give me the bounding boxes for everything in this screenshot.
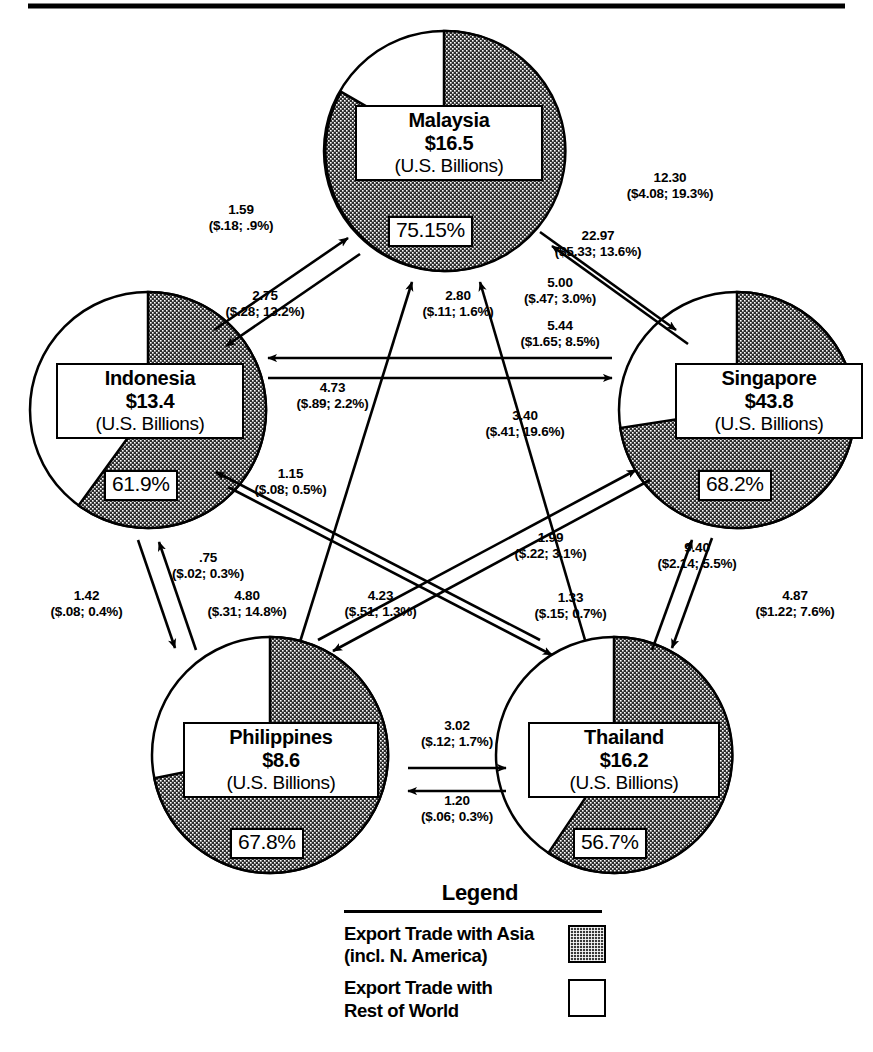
node-unit: (U.S. Billions): [365, 155, 533, 177]
node-box-thailand: Thailand $16.2 (U.S. Billions): [528, 722, 720, 798]
flow-label-indonesia-thailand: 4.80 ($.31; 14.8%): [182, 588, 312, 620]
flow-label-malaysia-singapore: 12.30 ($4.08; 19.3%): [600, 170, 740, 202]
pct-box-malaysia: 75.15%: [388, 216, 473, 247]
node-name: Indonesia: [66, 367, 234, 390]
trade-flow-diagram: Malaysia $16.5 (U.S. Billions) 75.15% In…: [0, 0, 873, 1052]
flow-label-singapore-malaysia: 22.97 ($5.33; 13.6%): [528, 228, 668, 260]
flow-label-philippines-indonesia: .75 ($.02; 0.3%): [148, 550, 268, 582]
flow-label-singapore-philippines: 3.40 ($.41; 19.6%): [455, 408, 595, 440]
pct-box-thailand: 56.7%: [573, 828, 647, 859]
node-unit: (U.S. Billions): [685, 413, 853, 435]
node-unit: (U.S. Billions): [193, 772, 369, 794]
node-name: Singapore: [685, 367, 853, 390]
legend: Legend Export Trade with Asia (incl. N. …: [330, 880, 630, 1022]
pct-box-singapore: 68.2%: [698, 470, 772, 501]
flow-label-singapore-thailand: 9.40 ($2.14; 5.5%): [632, 540, 762, 572]
flow-label-thailand-malaysia: 5.00 ($.47; 3.0%): [500, 275, 620, 307]
flow-label-malaysia-indonesia: 2.75 ($.28; 13.2%): [200, 288, 330, 320]
legend-title: Legend: [330, 880, 630, 906]
node-value: $8.6: [193, 749, 369, 772]
flow-label-indonesia-singapore: 5.44 ($1.65; 8.5%): [490, 318, 630, 350]
legend-item-rest-of-world: Export Trade with Rest of World: [330, 977, 606, 1021]
legend-item-rest-of-world-label: Export Trade with Rest of World: [344, 977, 492, 1021]
legend-swatch-rest-of-world-icon: [568, 979, 606, 1017]
flow-label-thailand-indonesia: 1.15 ($.08; 0.5%): [228, 466, 353, 498]
node-box-singapore: Singapore $43.8 (U.S. Billions): [675, 363, 863, 439]
node-box-malaysia: Malaysia $16.5 (U.S. Billions): [355, 105, 543, 181]
legend-divider: [344, 910, 602, 913]
flow-label-philippines-singapore: 1.99 ($.22; 3.1%): [488, 530, 613, 562]
node-value: $16.2: [538, 749, 710, 772]
legend-item-asia: Export Trade with Asia (incl. N. America…: [330, 923, 606, 967]
flow-label-indonesia-philippines: 1.42 ($.08; 0.4%): [24, 588, 149, 620]
flow-label-philippines-thailand: 3.02 ($.12; 1.7%): [398, 718, 516, 750]
flow-label-thailand-singapore: 4.87 ($1.22; 7.6%): [730, 588, 860, 620]
legend-label-line1: Export Trade with: [344, 977, 492, 999]
node-name: Thailand: [538, 726, 710, 749]
flow-label-philippines-thailand-diagonal: 4.23 ($.51; 1.3%): [318, 588, 443, 620]
node-unit: (U.S. Billions): [66, 413, 234, 435]
node-box-indonesia: Indonesia $13.4 (U.S. Billions): [56, 363, 244, 439]
pct-box-indonesia: 61.9%: [104, 470, 178, 501]
node-value: $16.5: [365, 132, 533, 155]
legend-label-line2: (incl. N. America): [344, 945, 534, 967]
legend-swatch-asia-icon: [568, 925, 606, 963]
legend-item-asia-label: Export Trade with Asia (incl. N. America…: [344, 923, 534, 967]
flow-label-singapore-indonesia: 4.73 ($.89; 2.2%): [270, 380, 395, 412]
flow-label-thailand-philippines-diagonal: 1.33 ($.15; 0.7%): [508, 590, 633, 622]
flow-label-thailand-philippines: 1.20 ($.06; 0.3%): [398, 793, 516, 825]
node-value: $43.8: [685, 390, 853, 413]
arrow-indonesia-thailand: [228, 487, 552, 655]
pct-box-philippines: 67.8%: [230, 828, 304, 859]
node-unit: (U.S. Billions): [538, 772, 710, 794]
node-name: Philippines: [193, 726, 369, 749]
node-name: Malaysia: [365, 109, 533, 132]
node-value: $13.4: [66, 390, 234, 413]
legend-label-line2: Rest of World: [344, 1000, 492, 1022]
legend-label-line1: Export Trade with Asia: [344, 923, 534, 945]
node-box-philippines: Philippines $8.6 (U.S. Billions): [183, 722, 379, 798]
flow-label-indonesia-malaysia: 1.59 ($.18; .9%): [186, 202, 296, 234]
